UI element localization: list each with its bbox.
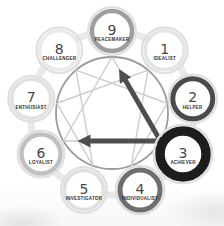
type-8-number: 8 (55, 41, 64, 57)
type-9-label: PEACEMAKER (95, 37, 130, 42)
type-3-number: 3 (179, 145, 188, 161)
type-4-number: 4 (136, 181, 145, 197)
enneagram-diagram-page: 9PEACEMAKER1IDEALIST2HELPER3ACHIEVER4IND… (0, 0, 224, 226)
type-1-label: IDEALIST (153, 56, 176, 61)
type-4-label: INDIVIDUALIST (122, 196, 158, 201)
type-6-number: 6 (37, 145, 46, 161)
type-2-label: HELPER (183, 105, 203, 110)
type-1-number: 1 (160, 41, 169, 57)
type-7-number: 7 (27, 89, 36, 105)
type-6-label: LOYALIST (29, 160, 53, 165)
type-5-number: 5 (79, 181, 88, 197)
type-2-number: 2 (188, 89, 197, 105)
enneagram-diagram: 9PEACEMAKER1IDEALIST2HELPER3ACHIEVER4IND… (0, 0, 224, 226)
type-3-label: ACHIEVER (170, 160, 196, 165)
type-5-label: INVESTIGATOR (66, 196, 103, 201)
central-circle (56, 57, 168, 169)
type-8-label: CHALLENGER (42, 56, 76, 61)
type-7-label: ENTHUSIAST (16, 105, 47, 110)
type-9-number: 9 (108, 22, 117, 38)
